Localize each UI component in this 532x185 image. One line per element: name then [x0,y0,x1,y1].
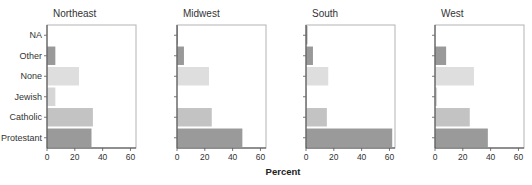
bar-none [306,67,328,85]
panels: NortheastNAOtherNoneJewishCatholicProtes… [1,8,524,162]
panel-title: South [312,8,338,19]
y-tick-label: Jewish [14,92,42,102]
x-tick-label: 60 [256,152,266,162]
x-tick-label: 40 [486,152,496,162]
bar-other [435,47,446,65]
x-tick-label: 0 [433,152,438,162]
bar-catholic [306,108,327,126]
panel-northeast: NortheastNAOtherNoneJewishCatholicProtes… [1,8,136,162]
bar-other [47,47,55,65]
faceted-bar-chart: NortheastNAOtherNoneJewishCatholicProtes… [0,0,532,185]
panel-midwest: Midwest0204060 [174,8,266,162]
x-tick-label: 40 [98,152,108,162]
bar-catholic [435,108,470,126]
x-tick-label: 0 [45,152,50,162]
bar-catholic [177,108,212,126]
panel-south: South0204060 [303,8,395,162]
panel-title: West [441,8,464,19]
bar-protestant [177,129,242,147]
y-tick-label: Other [19,51,42,61]
x-tick-label: 20 [458,152,468,162]
x-axis-title: Percent [266,166,302,177]
x-tick-label: 60 [126,152,136,162]
x-tick-label: 0 [175,152,180,162]
y-tick-label: None [20,71,42,81]
y-tick-label: Protestant [1,133,43,143]
panel-title: Midwest [183,8,220,19]
x-tick-label: 20 [200,152,210,162]
bar-none [47,67,79,85]
bar-catholic [47,108,93,126]
x-tick-label: 60 [385,152,395,162]
x-tick-label: 20 [70,152,80,162]
bar-protestant [47,129,92,147]
x-tick-label: 40 [357,152,367,162]
x-tick-label: 20 [329,152,339,162]
bar-other [306,47,313,65]
bar-protestant [306,129,392,147]
panel-title: Northeast [53,8,97,19]
panel-west: West0204060 [432,8,524,162]
y-tick-label: NA [29,30,42,40]
x-tick-label: 0 [304,152,309,162]
bar-protestant [435,129,488,147]
x-tick-label: 60 [514,152,524,162]
y-tick-label: Catholic [9,112,42,122]
x-tick-label: 40 [228,152,238,162]
bar-none [177,67,209,85]
bar-none [435,67,474,85]
bar-other [177,47,184,65]
bar-jewish [47,88,55,106]
